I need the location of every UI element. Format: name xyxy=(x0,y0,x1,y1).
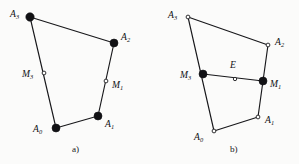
point-m3 xyxy=(42,71,46,75)
label-a1: A1 xyxy=(264,114,274,126)
polygon-edge-a0-a1 xyxy=(56,116,98,128)
caption-panel-b: b) xyxy=(230,144,238,154)
point-a2 xyxy=(110,39,118,47)
panel-a: A0A1A2A3M3M1a) xyxy=(9,8,131,154)
label-a3: A3 xyxy=(9,8,19,20)
point-a3 xyxy=(26,13,34,21)
polygon-edge-a2-a3 xyxy=(30,17,114,43)
caption-panel-a: a) xyxy=(72,144,79,154)
label-a1: A1 xyxy=(104,118,114,130)
panel-b: A0A1A2A3M3M1Eb) xyxy=(167,9,285,154)
point-e xyxy=(233,77,236,80)
label-e: E xyxy=(229,59,236,70)
label-a0: A0 xyxy=(32,123,43,135)
point-m1 xyxy=(259,77,267,85)
point-a0 xyxy=(52,124,60,132)
point-a2 xyxy=(266,43,270,47)
point-a1 xyxy=(94,112,102,120)
polygon-edge-a0-a1 xyxy=(214,117,258,131)
point-m1 xyxy=(104,79,108,83)
label-a3: A3 xyxy=(167,9,177,21)
label-m1: M1 xyxy=(111,79,123,91)
point-m3 xyxy=(199,70,207,78)
label-m1: M1 xyxy=(269,78,281,90)
polygon-edge-a2-a3 xyxy=(188,17,268,45)
label-m3: M3 xyxy=(179,69,191,81)
point-a3 xyxy=(186,15,190,19)
geometry-figure: A0A1A2A3M3M1a)A0A1A2A3M3M1Eb) xyxy=(0,0,299,164)
label-a2: A2 xyxy=(120,31,131,43)
point-a1 xyxy=(256,115,260,119)
figure-container: A0A1A2A3M3M1a)A0A1A2A3M3M1Eb) xyxy=(0,0,299,164)
midline-m3-m1 xyxy=(203,74,263,81)
label-a2: A2 xyxy=(274,36,285,48)
label-a0: A0 xyxy=(193,131,204,143)
label-m3: M3 xyxy=(21,68,33,80)
point-a0 xyxy=(212,129,216,133)
